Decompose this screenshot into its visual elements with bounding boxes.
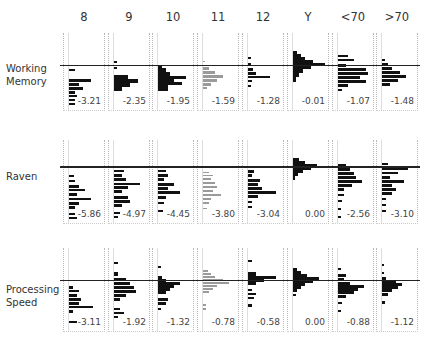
histogram-bar — [382, 184, 392, 187]
histogram-bar — [338, 274, 346, 277]
histogram-bar — [248, 282, 256, 285]
histogram-bar — [203, 182, 215, 184]
panel-raven-9: -4.97 — [108, 140, 150, 224]
panel-value: -1.59 — [212, 96, 235, 106]
histogram-bar — [203, 291, 209, 293]
histogram-bar — [114, 290, 136, 293]
histogram-bar — [114, 312, 124, 314]
histogram-bar — [203, 270, 208, 272]
histogram-bar — [382, 176, 390, 179]
histogram-bar — [382, 293, 388, 296]
histogram-bar — [382, 71, 400, 74]
panel-ps-11: -0.78 — [197, 248, 239, 332]
histogram-bar — [248, 191, 276, 194]
histogram-bar — [248, 293, 256, 295]
column-header-12: 12 — [242, 10, 284, 24]
panel-wm-11: -1.59 — [197, 33, 239, 111]
panel-wm-lt70: -1.07 — [332, 33, 374, 111]
histogram-bar — [158, 183, 174, 186]
histogram-bar — [338, 310, 341, 312]
histogram-bar — [203, 79, 217, 82]
histogram-bar — [69, 198, 91, 200]
panel-value: -2.35 — [123, 96, 146, 106]
histogram-bar — [114, 308, 120, 310]
histogram-bar — [248, 206, 252, 208]
axis — [292, 140, 293, 223]
histogram-bar — [114, 286, 134, 289]
panel-value: -0.78 — [212, 317, 235, 327]
panel-value: 0.00 — [305, 209, 325, 219]
panel-value: -1.12 — [391, 317, 414, 327]
panel-value: -1.07 — [347, 96, 370, 106]
histogram-bar — [114, 298, 120, 301]
histogram-bar — [203, 87, 207, 89]
histogram-bar — [382, 188, 396, 191]
histogram-bar — [114, 186, 128, 189]
histogram-bar — [248, 57, 251, 59]
histogram-bar — [382, 272, 384, 274]
column-header-gt70: >70 — [376, 10, 418, 24]
histogram-bar — [248, 179, 260, 182]
axis — [113, 140, 114, 223]
panel-value: -0.01 — [302, 96, 325, 106]
histogram-bar — [69, 175, 74, 177]
histogram-bar — [158, 174, 168, 177]
histogram-bar — [338, 76, 360, 79]
histogram-bar — [203, 276, 215, 278]
histogram-bar — [114, 272, 118, 276]
panel-value: -4.45 — [167, 209, 190, 219]
panel-raven-y: 0.00 — [287, 140, 329, 224]
histogram-bar — [69, 185, 79, 188]
histogram-bar — [338, 168, 350, 171]
column-header-8: 8 — [63, 10, 105, 24]
histogram-bar — [69, 294, 77, 297]
histogram-bar — [338, 200, 342, 202]
histogram-bar — [158, 291, 166, 294]
histogram-bar — [248, 304, 252, 307]
histogram-bar — [158, 187, 168, 190]
histogram-bar — [114, 87, 122, 91]
reference-line-ps — [60, 280, 420, 281]
histogram-bar — [114, 204, 122, 207]
histogram-bar — [114, 174, 122, 177]
histogram-bar — [248, 297, 254, 299]
histogram-bar — [69, 302, 79, 305]
panel-wm-8: -3.21 — [63, 33, 105, 111]
histogram-bar — [338, 80, 366, 83]
row-label-raven: Raven — [6, 170, 58, 183]
histogram-bar — [248, 80, 252, 82]
histogram-bar — [69, 189, 85, 191]
histogram-bar — [114, 216, 118, 218]
row-label-line: Raven — [6, 170, 58, 183]
histogram-bar — [203, 83, 211, 86]
histogram-bar — [382, 210, 386, 212]
histogram-bar — [203, 71, 215, 74]
row-label-line: Speed — [6, 296, 58, 309]
panel-value: 0.00 — [305, 317, 325, 327]
histogram-bar — [69, 321, 77, 323]
histogram-bar — [158, 210, 163, 212]
histogram-bar — [158, 202, 164, 204]
histogram-bar — [203, 304, 206, 306]
histogram-bar — [158, 191, 180, 194]
histogram-bar — [114, 196, 128, 199]
column-header-11: 11 — [197, 10, 239, 24]
histogram-bar — [158, 308, 161, 310]
histogram-bar — [382, 289, 392, 292]
panel-value: -1.28 — [257, 96, 280, 106]
histogram-bar — [248, 201, 252, 203]
histogram-bar — [338, 172, 354, 175]
histogram-bar — [69, 202, 79, 205]
histogram-bar — [203, 288, 213, 290]
panel-ps-10: -1.32 — [152, 248, 194, 332]
histogram-bar — [203, 202, 209, 204]
panel-wm-9: -2.35 — [108, 33, 150, 111]
histogram-bar — [293, 176, 295, 180]
panel-value: -1.92 — [123, 317, 146, 327]
panel-wm-gt70: -1.48 — [376, 33, 418, 111]
row-label-line: Memory — [6, 75, 58, 88]
panel-raven-10: -4.45 — [152, 140, 194, 224]
histogram-bar — [69, 79, 91, 82]
histogram-bar — [248, 260, 252, 262]
histogram-bar — [69, 103, 75, 105]
